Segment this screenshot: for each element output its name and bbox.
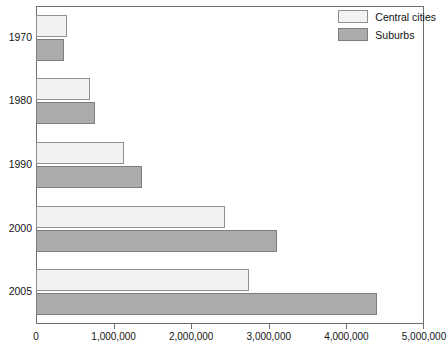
x-tick-label-4: 4,000,000 [324, 331, 369, 342]
x-tick-mark-2 [191, 324, 192, 329]
y-tick-label-2000: 2000 [0, 222, 32, 234]
y-tick-label-1970: 1970 [0, 31, 32, 43]
bar-2005-central-cities [36, 269, 249, 291]
bar-1990-suburbs [36, 166, 142, 188]
x-tick-label-0: 0 [33, 331, 39, 342]
bar-1970-suburbs [36, 39, 64, 61]
legend-swatch-suburbs-icon [338, 28, 368, 41]
bar-1990-central-cities [36, 142, 124, 164]
x-tick-label-5: 5,000,000 [402, 331, 447, 342]
x-tick-mark-1 [114, 324, 115, 329]
legend-item-central-cities[interactable]: Central cities [338, 10, 436, 23]
x-tick-label-1: 1,000,000 [91, 331, 136, 342]
x-tick-mark-3 [269, 324, 270, 329]
bar-1970-central-cities [36, 15, 67, 37]
legend-swatch-central-cities-icon [338, 10, 368, 23]
chart-legend: Central cities Suburbs [338, 10, 436, 41]
x-tick-mark-4 [346, 324, 347, 329]
bar-2000-suburbs [36, 230, 277, 252]
y-tick-label-1980: 1980 [0, 94, 32, 106]
x-tick-label-3: 3,000,000 [247, 331, 292, 342]
bar-chart: 19701980199020002005 01,000,0002,000,000… [0, 0, 448, 356]
y-tick-label-2005: 2005 [0, 285, 32, 297]
bar-2000-central-cities [36, 206, 225, 228]
bar-1980-suburbs [36, 102, 95, 124]
bar-2005-suburbs [36, 293, 377, 315]
x-tick-label-2: 2,000,000 [169, 331, 214, 342]
legend-item-suburbs[interactable]: Suburbs [338, 28, 436, 41]
legend-label-suburbs: Suburbs [375, 29, 414, 41]
legend-label-central-cities: Central cities [375, 11, 436, 23]
x-tick-mark-5 [423, 324, 424, 329]
y-tick-label-1990: 1990 [0, 158, 32, 170]
bar-1980-central-cities [36, 78, 90, 100]
